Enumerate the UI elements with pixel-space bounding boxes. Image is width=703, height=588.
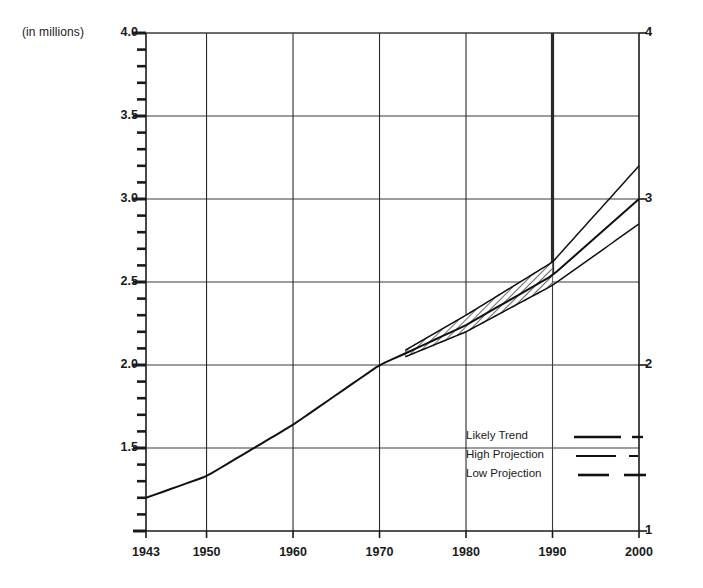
x-axis-tick-label: 1970 (366, 545, 394, 559)
legend-label: Low Projection (466, 467, 574, 479)
legend-item-high-projection: High Projection (466, 444, 656, 463)
legend-line-sample-likely-trend (574, 429, 650, 441)
x-axis-tick-label: 1950 (193, 545, 221, 559)
x-axis-tick-label: 1960 (279, 545, 307, 559)
legend-line-sample-high-projection (574, 448, 650, 460)
x-axis-tick-label: 2000 (625, 545, 653, 559)
legend-line-sample-low-projection (574, 467, 650, 479)
legend-item-likely-trend: Likely Trend (466, 425, 656, 444)
x-axis-tick-label: 1990 (539, 545, 567, 559)
legend-item-low-projection: Low Projection (466, 463, 656, 482)
x-axis-tick-labels: 1943195019601970198019902000 (0, 0, 703, 588)
x-axis-tick-label: 1980 (452, 545, 480, 559)
x-axis-tick-label: 1943 (132, 545, 160, 559)
chart-legend: Likely Trend High Projection Low Project… (466, 425, 656, 482)
legend-label: Likely Trend (466, 429, 574, 441)
chart-container: (in millions) 1.52.02.53.03.54.0 1234 19… (0, 0, 703, 588)
legend-label: High Projection (466, 448, 574, 460)
